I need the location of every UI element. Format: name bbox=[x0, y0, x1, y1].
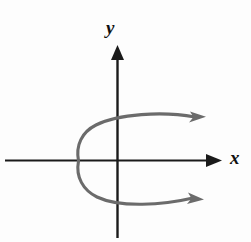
parabola-lower-branch bbox=[78, 161, 193, 204]
graph-figure: y x bbox=[0, 0, 251, 242]
x-axis-arrowhead bbox=[206, 154, 222, 167]
coordinate-plot bbox=[0, 0, 251, 242]
y-axis-arrowhead bbox=[111, 45, 124, 60]
y-axis-label: y bbox=[106, 18, 114, 37]
x-axis-label: x bbox=[230, 148, 240, 167]
parabola-upper-branch bbox=[78, 114, 195, 161]
